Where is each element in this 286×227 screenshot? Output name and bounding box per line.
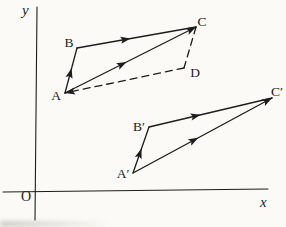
- arrowhead-Ap-Cp: [261, 98, 272, 106]
- point-label-D: D: [190, 65, 200, 80]
- y-axis-label: y: [22, 3, 29, 18]
- point-label-C: C: [197, 14, 206, 29]
- point-label-Cp: C′: [271, 84, 283, 99]
- point-label-Bp: B′: [133, 119, 145, 134]
- arrowhead-Ap-Cp: [188, 138, 199, 146]
- edge-A-C: [65, 27, 196, 93]
- point-label-B: B: [64, 35, 73, 50]
- figure-canvas: ABCDA′B′C′ y O x: [0, 0, 286, 227]
- edge-Ap-Cp: [133, 98, 272, 173]
- origin-label: O: [21, 190, 31, 204]
- point-label-A: A: [51, 88, 61, 103]
- y-axis-line: [35, 7, 37, 220]
- edge-B-C: [77, 27, 196, 48]
- edge-D-A: [65, 68, 184, 93]
- x-axis-line: [3, 189, 268, 192]
- x-axis-label: x: [260, 195, 267, 210]
- vector-diagram: ABCDA′B′C′: [0, 0, 286, 227]
- point-label-Ap: A′: [117, 166, 130, 181]
- edge-Bp-Cp: [149, 98, 272, 127]
